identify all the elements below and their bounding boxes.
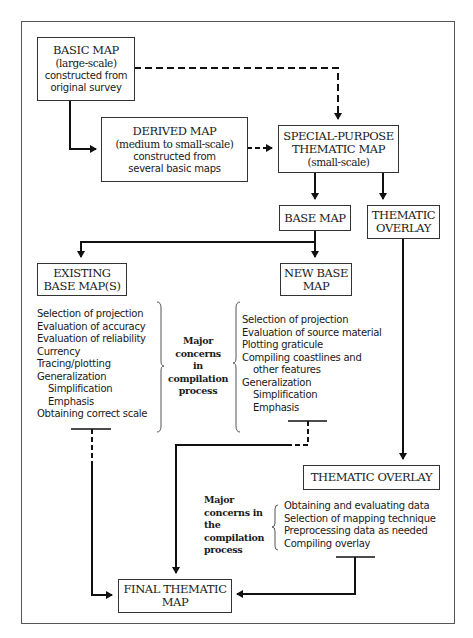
special-purpose-title-2: THEMATIC MAP — [292, 143, 385, 156]
label-line: process — [166, 385, 230, 398]
list-item: Evaluation of accuracy — [37, 321, 147, 334]
list-item: Tracing/plotting — [37, 358, 147, 371]
basic-map-desc-2: original survey — [50, 82, 121, 94]
thematic-overlay-node-bottom: THEMATIC OVERLAY — [303, 465, 440, 490]
label-line: the — [204, 519, 264, 532]
thematic-overlay-bottom-title: THEMATIC OVERLAY — [311, 471, 432, 484]
new-base-concerns-list: Selection of projection Evaluation of so… — [242, 314, 382, 414]
final-map-title-2: MAP — [162, 596, 189, 609]
major-concerns-label: Major concerns in compilation process — [166, 335, 230, 398]
new-base-title-1: NEW BASE — [284, 267, 348, 280]
list-item: Evaluation of reliability — [37, 333, 147, 346]
label-line: concerns in — [204, 507, 264, 520]
list-item: Plotting graticule — [242, 339, 382, 352]
label-line: Major — [204, 494, 264, 507]
thematic-overlay-node-top: THEMATIC OVERLAY — [367, 205, 440, 239]
list-item: Compiling coastlines and — [242, 352, 382, 365]
list-item: Selection of mapping technique — [284, 513, 436, 526]
existing-concerns-list: Selection of projection Evaluation of ac… — [37, 308, 147, 421]
label-line: compilation — [166, 373, 230, 386]
list-subitem: other features — [242, 364, 382, 377]
label-line: concerns — [166, 348, 230, 361]
label-line: in — [166, 360, 230, 373]
label-line: process — [204, 544, 264, 557]
special-purpose-title-1: SPECIAL-PURPOSE — [283, 130, 394, 143]
existing-base-title-2: BASE MAP(S) — [44, 280, 121, 293]
label-line: compilation — [204, 532, 264, 545]
derived-map-desc-1: constructed from — [133, 151, 216, 163]
existing-base-title-1: EXISTING — [53, 267, 110, 280]
overlay-concerns-label: Major concerns in the compilation proces… — [204, 494, 264, 557]
final-thematic-map-node: FINAL THEMATIC MAP — [118, 579, 232, 613]
list-item: Generalization — [37, 371, 147, 384]
new-base-title-2: MAP — [303, 280, 330, 293]
basic-map-node: BASIC MAP (large-scale) constructed from… — [37, 37, 135, 101]
thematic-overlay-top-title-2: OVERLAY — [376, 222, 431, 235]
derived-map-node: DERIVED MAP (medium to small-scale) cons… — [101, 117, 248, 182]
label-line: Major — [166, 335, 230, 348]
overlay-concerns-list: Obtaining and evaluating data Selection … — [284, 500, 436, 550]
list-item: Obtaining correct scale — [37, 408, 147, 421]
list-item: Selection of projection — [242, 314, 382, 327]
list-subitem: Simplification — [242, 389, 382, 402]
special-purpose-map-node: SPECIAL-PURPOSE THEMATIC MAP (small-scal… — [278, 125, 399, 173]
basic-map-desc-1: constructed from — [45, 70, 128, 82]
new-base-map-node: NEW BASE MAP — [280, 263, 352, 296]
list-subitem: Simplification — [37, 383, 147, 396]
base-map-title: BASE MAP — [284, 212, 345, 225]
list-item: Evaluation of source material — [242, 327, 382, 340]
list-item: Obtaining and evaluating data — [284, 500, 436, 513]
existing-base-maps-node: EXISTING BASE MAP(S) — [37, 263, 127, 296]
base-map-node: BASE MAP — [279, 205, 351, 231]
basic-map-title: BASIC MAP — [53, 44, 119, 57]
special-purpose-scale: (small-scale) — [308, 156, 370, 169]
derived-map-title: DERIVED MAP — [133, 125, 217, 138]
derived-map-scale: (medium to small-scale) — [115, 138, 233, 151]
list-item: Compiling overlay — [284, 538, 436, 551]
list-item: Selection of projection — [37, 308, 147, 321]
list-item: Preprocessing data as needed — [284, 525, 436, 538]
list-item: Generalization — [242, 377, 382, 390]
derived-map-desc-2: several basic maps — [128, 163, 221, 175]
list-item: Currency — [37, 346, 147, 359]
list-subitem: Emphasis — [37, 396, 147, 409]
list-subitem: Emphasis — [242, 402, 382, 415]
basic-map-scale: (large-scale) — [55, 57, 116, 70]
